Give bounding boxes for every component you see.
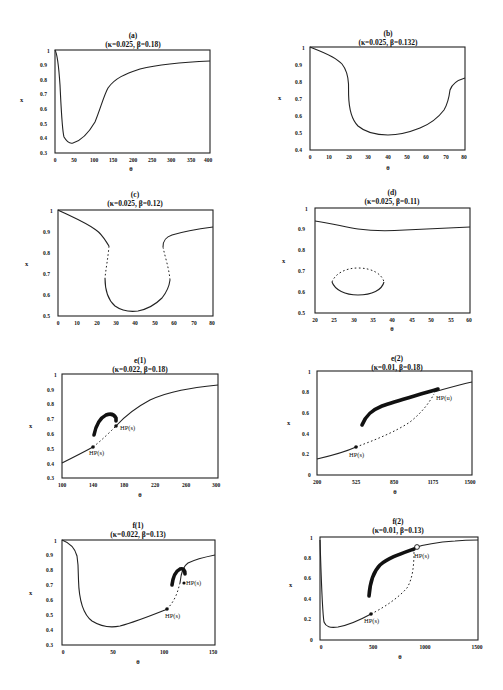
panel-f1-xticks: 0 50 100 150 xyxy=(62,649,218,655)
svg-text:260: 260 xyxy=(182,482,191,488)
svg-text:0.7: 0.7 xyxy=(43,271,50,277)
panel-b-label: (b) xyxy=(383,29,393,38)
svg-text:300: 300 xyxy=(167,157,176,163)
svg-text:0.8: 0.8 xyxy=(304,555,311,561)
panel-f2-annotation-hp1: HP(s) xyxy=(364,617,379,625)
panel-e2-annotation-hp1: HP(s) xyxy=(349,451,364,459)
panel-f2-stable-low xyxy=(320,540,371,627)
panel-f2-frame xyxy=(320,537,478,640)
svg-text:0.6: 0.6 xyxy=(46,597,53,603)
svg-text:0.9: 0.9 xyxy=(46,552,53,558)
panel-f2-ylabel: x xyxy=(289,581,293,588)
panel-e1-label: e(1) xyxy=(134,356,147,365)
svg-text:30: 30 xyxy=(365,154,371,160)
svg-text:30: 30 xyxy=(113,320,119,326)
panel-e1-frame xyxy=(62,374,218,478)
svg-text:1000: 1000 xyxy=(420,644,431,650)
panel-f2-xticks: 0 500 1000 1500 xyxy=(320,644,483,650)
panel-a-stable-curve xyxy=(55,50,210,143)
svg-text:0.5: 0.5 xyxy=(46,612,53,618)
svg-text:1: 1 xyxy=(305,206,308,212)
svg-text:0.5: 0.5 xyxy=(40,121,47,127)
panel-f2-params: (κ=0.01, β=0.13) xyxy=(372,526,424,535)
svg-text:1: 1 xyxy=(308,369,311,375)
panel-f1-label: f(1) xyxy=(132,521,144,530)
panel-f2-periodic-branch xyxy=(369,549,414,596)
svg-text:0.4: 0.4 xyxy=(47,461,54,467)
panel-f2-stable-high xyxy=(414,540,478,548)
panel-c-frame xyxy=(58,210,213,316)
panel-b-xlabel: θ xyxy=(386,164,390,171)
svg-text:0.7: 0.7 xyxy=(40,91,47,97)
panel-b-ylabel: x xyxy=(278,94,282,101)
svg-text:100: 100 xyxy=(90,157,99,163)
svg-text:55: 55 xyxy=(448,317,454,323)
panel-e2-frame xyxy=(317,371,472,475)
panel-c-label: (c) xyxy=(131,190,140,199)
panel-e1-annotation-hp1: HP(s) xyxy=(89,449,104,457)
panel-d-isola-stable xyxy=(332,282,384,295)
svg-text:50: 50 xyxy=(152,320,158,326)
svg-text:1500: 1500 xyxy=(472,644,483,650)
panel-f1-params: (κ=0.022, β=0.13) xyxy=(110,530,166,539)
panel-c-xticks: 0 10 20 30 40 50 60 70 80 xyxy=(57,320,215,326)
svg-text:140: 140 xyxy=(89,482,98,488)
svg-text:70: 70 xyxy=(443,154,449,160)
svg-text:400: 400 xyxy=(204,157,213,163)
svg-text:0.9: 0.9 xyxy=(47,387,54,393)
panel-f2-annotation-hp2: HP(s) xyxy=(414,552,429,560)
svg-text:0.7: 0.7 xyxy=(295,96,302,102)
svg-text:0.6: 0.6 xyxy=(43,292,50,298)
svg-text:0.4: 0.4 xyxy=(304,596,311,602)
svg-text:0.3: 0.3 xyxy=(40,150,47,156)
svg-text:0.8: 0.8 xyxy=(302,389,309,395)
svg-text:20: 20 xyxy=(312,317,318,323)
svg-text:200: 200 xyxy=(129,157,138,163)
panel-f1-xlabel: θ xyxy=(136,658,140,665)
panel-f2-hopf-point-2 xyxy=(415,545,420,550)
svg-text:525: 525 xyxy=(352,479,361,485)
svg-text:40: 40 xyxy=(385,154,391,160)
panel-e2-xlabel: θ xyxy=(393,488,397,495)
svg-text:40: 40 xyxy=(389,317,395,323)
panel-a-xlabel: θ xyxy=(129,165,133,172)
panel-e2-stable-high xyxy=(434,382,472,392)
panel-f1-stable-low xyxy=(62,540,167,627)
panel-c-unstable-left xyxy=(105,246,109,278)
panel-d-ylabel: x xyxy=(282,257,286,264)
panel-b-params: (κ=0.025, β=0.132) xyxy=(358,38,418,47)
svg-text:300: 300 xyxy=(212,482,221,488)
panel-b-yticks: 0.4 0.5 0.6 0.7 0.8 0.9 1 xyxy=(295,45,305,153)
panel-f1-ylabel: x xyxy=(29,589,33,596)
panel-d-label: (d) xyxy=(387,188,397,197)
panel-f2-xlabel: θ xyxy=(398,653,402,660)
panel-e1-xticks: 100 140 180 220 260 300 xyxy=(58,482,221,488)
svg-text:45: 45 xyxy=(409,317,415,323)
svg-text:40: 40 xyxy=(132,320,138,326)
svg-text:500: 500 xyxy=(369,644,378,650)
panel-b: (b) (κ=0.025, β=0.132) 0.4 0.5 0.6 0.7 0… xyxy=(278,29,467,171)
svg-text:0.6: 0.6 xyxy=(47,431,54,437)
svg-text:0.3: 0.3 xyxy=(47,475,54,481)
panel-d-xlabel: θ xyxy=(390,325,394,332)
panel-f1-unstable xyxy=(167,583,180,609)
svg-text:10: 10 xyxy=(326,154,332,160)
svg-text:0.8: 0.8 xyxy=(43,250,50,256)
svg-text:100: 100 xyxy=(160,649,169,655)
panel-c-stable-lower xyxy=(105,278,170,311)
svg-text:1: 1 xyxy=(50,208,53,214)
svg-text:0.6: 0.6 xyxy=(40,106,47,112)
panel-e1-yticks: 0.3 0.4 0.5 0.6 0.7 0.8 0.9 1 xyxy=(47,372,57,481)
panel-e1-annotation-hp2: HP(s) xyxy=(120,424,135,432)
panel-e2-xticks: 200 525 850 1175 1500 xyxy=(313,479,476,485)
panel-a-params: (κ=0.025, β=0.18) xyxy=(105,40,161,49)
svg-text:0.9: 0.9 xyxy=(43,229,50,235)
svg-text:250: 250 xyxy=(148,157,157,163)
svg-text:0.6: 0.6 xyxy=(302,410,309,416)
svg-text:180: 180 xyxy=(120,482,129,488)
svg-text:20: 20 xyxy=(94,320,100,326)
svg-text:1: 1 xyxy=(47,48,50,54)
panel-a: (a) (κ=0.025, β=0.18) 0.3 0.4 0.5 0.6 0.… xyxy=(20,31,212,172)
svg-text:80: 80 xyxy=(209,320,215,326)
panel-c-yticks: 0.5 0.6 0.7 0.8 0.9 1 xyxy=(43,208,53,319)
